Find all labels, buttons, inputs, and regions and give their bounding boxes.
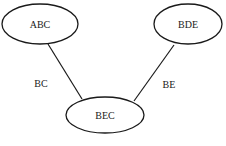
diagram-canvas: ABC BDE BEC BC BE <box>0 0 226 146</box>
diagram-svg: ABC BDE BEC BC BE <box>0 0 226 146</box>
edge-bde-bec-label: BE <box>163 79 176 90</box>
edge-abc-bec-label: BC <box>34 78 48 89</box>
node-abc-label: ABC <box>30 19 51 30</box>
node-bec: BEC <box>66 97 144 133</box>
edge-bde-bec <box>134 45 174 101</box>
node-abc: ABC <box>2 4 78 44</box>
node-bde: BDE <box>154 4 222 44</box>
node-bde-label: BDE <box>178 19 198 30</box>
edge-abc-bec <box>48 44 82 99</box>
node-bec-label: BEC <box>95 110 115 121</box>
